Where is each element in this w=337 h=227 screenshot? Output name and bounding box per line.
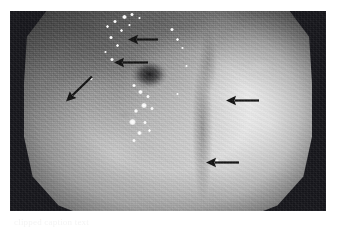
film-grain-layer (24, 11, 312, 211)
endoscopy-photo-frame (10, 11, 326, 211)
pale-right-fold (24, 11, 312, 211)
endoscope-field-of-view-wrapper (10, 11, 326, 211)
caption-strip: clipped caption text (14, 217, 314, 227)
figure-page: clipped caption text (0, 0, 337, 227)
central-dark-pit (24, 11, 312, 211)
mucosa-base-layer (24, 11, 312, 211)
caption-text: clipped caption text (14, 217, 314, 227)
mucosa-texture-layer (24, 11, 312, 211)
fold-crease-shadow (24, 11, 312, 211)
endoscope-field-of-view (24, 11, 312, 211)
scope-vignette-layer (24, 11, 312, 211)
mucosa-upper-left-shadow (24, 11, 312, 211)
